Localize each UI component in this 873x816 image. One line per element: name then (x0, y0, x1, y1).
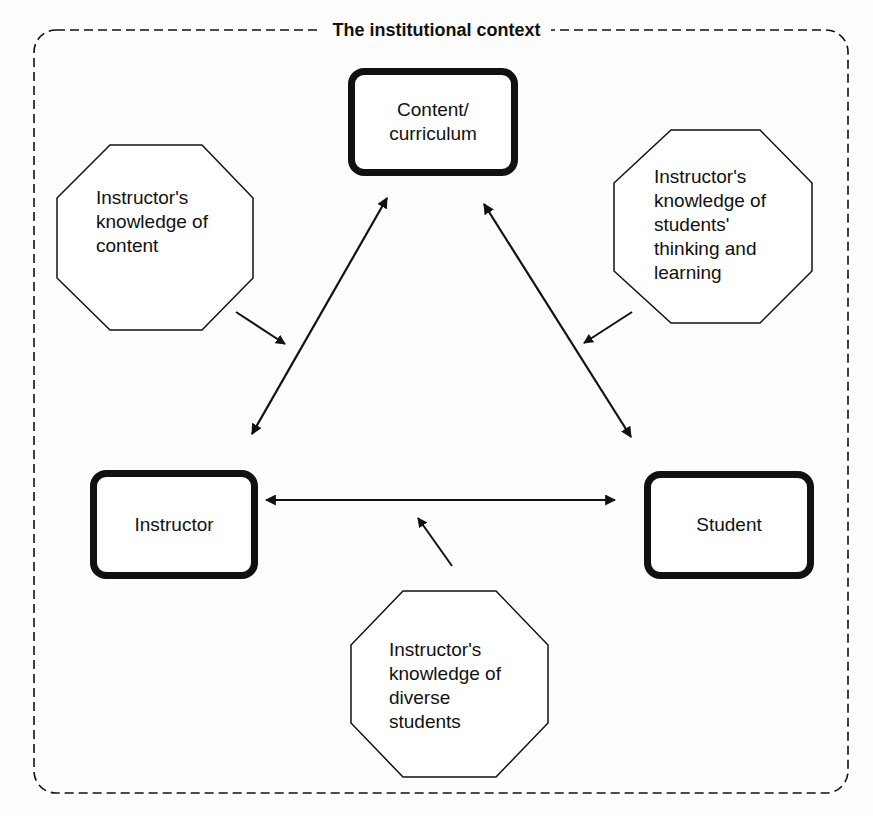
octagon-knowledge-of-students-thinking-label: Instructor's knowledge of students' thin… (654, 165, 766, 285)
node-instructor-label: Instructor (134, 513, 213, 537)
diagram-title: The institutional context (0, 18, 873, 42)
node-instructor: Instructor (90, 470, 258, 579)
institutional-context-label: The institutional context (322, 20, 550, 40)
arrow-diverse-students-influence (418, 518, 452, 566)
octagon-knowledge-of-diverse-students-label: Instructor's knowledge of diverse studen… (389, 638, 501, 734)
arrow-student-thinking-influence (584, 312, 632, 343)
arrow-content-knowledge-influence (236, 312, 285, 344)
node-content-curriculum-label: Content/ curriculum (389, 98, 477, 146)
node-student: Student (644, 471, 814, 579)
octagon-knowledge-of-content-label: Instructor's knowledge of content (96, 186, 208, 258)
node-content-curriculum: Content/ curriculum (348, 68, 518, 176)
arrow-content-student (484, 204, 631, 437)
arrow-instructor-content (252, 198, 387, 434)
node-student-label: Student (696, 513, 762, 537)
